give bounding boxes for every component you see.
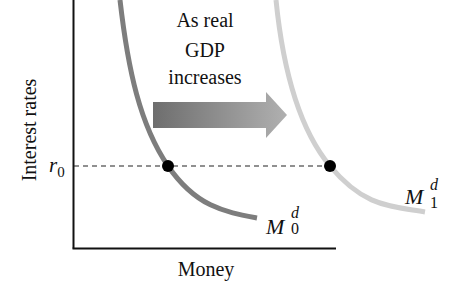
m1-curve-label: M [404, 184, 425, 209]
annotation-line-3: increases [168, 66, 242, 88]
r0-subscript: 0 [57, 164, 65, 180]
m0-curve-superscript: d [291, 204, 300, 221]
m1-curve-subscript: 1 [430, 194, 438, 211]
annotation-line-2: GDP [185, 39, 225, 61]
m0-curve-subscript: 0 [291, 220, 299, 237]
money-demand-diagram: As real GDP increases Interest rates r0 … [0, 0, 455, 290]
y-axis-label: Interest rates [18, 78, 40, 181]
point-m1-r0 [324, 160, 336, 172]
annotation-line-1: As real [176, 9, 234, 31]
money-demand-curve-m1 [276, 0, 425, 212]
m1-curve-superscript: d [430, 176, 439, 193]
x-axis-label: Money [178, 258, 235, 281]
r0-label: r0 [49, 153, 65, 180]
shift-right-arrow [153, 92, 287, 138]
point-m0-r0 [162, 160, 174, 172]
m0-curve-label: M [265, 214, 286, 239]
